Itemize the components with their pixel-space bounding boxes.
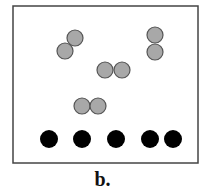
gray-particle — [67, 30, 83, 46]
gray-particle — [74, 98, 90, 114]
gray-particle — [97, 62, 113, 78]
gray-particle — [147, 44, 163, 60]
gray-particle — [57, 43, 73, 59]
gray-particle — [147, 27, 163, 43]
black-particle — [164, 130, 182, 148]
black-particle-row — [40, 130, 182, 148]
gray-particle-pairs — [57, 27, 163, 114]
gray-particle — [90, 98, 106, 114]
black-particle — [107, 130, 125, 148]
black-particle — [73, 130, 91, 148]
black-particle — [40, 130, 58, 148]
figure-label: b. — [0, 168, 205, 191]
particle-diagram — [0, 0, 205, 193]
gray-particle — [114, 62, 130, 78]
black-particle — [141, 130, 159, 148]
